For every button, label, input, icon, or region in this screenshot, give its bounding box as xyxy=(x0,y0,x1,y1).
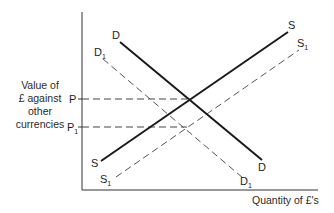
price-label-p: P xyxy=(69,93,76,105)
curve-label-d1-top: D1 xyxy=(94,46,106,60)
y-axis-label-line: Value of xyxy=(6,79,74,92)
x-axis-label: Quantity of £'s xyxy=(252,194,319,206)
curve-label-s-top: S xyxy=(288,19,295,31)
curve-label-d-text: D xyxy=(112,29,120,41)
y-axis-label-line: £ against xyxy=(6,92,74,105)
curve-label-d1-subscript: 1 xyxy=(102,53,106,60)
supply-curve-s xyxy=(101,32,288,161)
curve-label-d-top: D xyxy=(112,29,120,41)
demand-curve-d xyxy=(120,42,262,160)
curve-label-s1-bottom: S1 xyxy=(100,173,111,187)
curve-label-d1-bottom: D1 xyxy=(240,175,252,189)
price-label-p1-subscript: 1 xyxy=(74,128,78,135)
curve-label-s1-top: S1 xyxy=(297,37,308,51)
curve-label-d-bottom: D xyxy=(258,161,266,173)
curve-label-d-text: D xyxy=(258,161,266,173)
price-label-p1: P1 xyxy=(67,121,78,135)
y-axis-label: Value of £ against other currencies xyxy=(6,79,74,131)
curve-label-s1-subscript: 1 xyxy=(304,44,308,51)
curve-label-d1-text: D xyxy=(240,175,248,187)
curve-label-s-text: S xyxy=(288,19,295,31)
price-label-p-text: P xyxy=(69,93,76,105)
curve-label-s1-subscript: 1 xyxy=(107,180,111,187)
curve-label-s-bottom: S xyxy=(91,157,98,169)
curve-label-d1-text: D xyxy=(94,46,102,58)
y-axis-label-line: currencies xyxy=(6,118,74,131)
y-axis-label-line: other xyxy=(6,105,74,118)
curve-label-s-text: S xyxy=(91,157,98,169)
curve-label-d1-subscript: 1 xyxy=(248,182,252,189)
